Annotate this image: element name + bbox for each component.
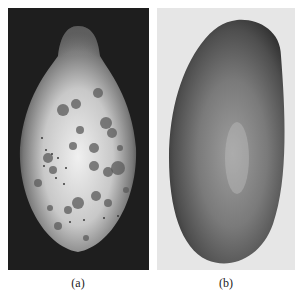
panel-a-caption: (a) — [58, 276, 98, 291]
diseased-papaya-image — [8, 8, 149, 270]
panel-a-diseased-fruit-photo — [8, 8, 149, 270]
healthy-papaya-image — [157, 8, 295, 270]
panel-b-caption: (b) — [206, 276, 246, 291]
panel-b-healthy-fruit-photo — [157, 8, 295, 270]
